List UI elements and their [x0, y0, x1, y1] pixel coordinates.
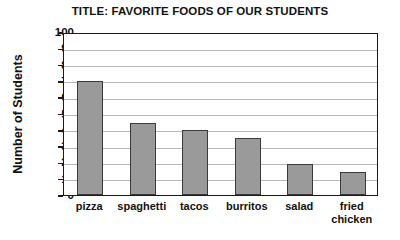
x-axis-tick-label: pizza — [63, 200, 116, 213]
bar — [235, 138, 261, 195]
bar — [340, 172, 366, 195]
bar-chart-figure: TITLE: FAVORITE FOODS OF OUR STUDENTS Nu… — [0, 0, 400, 240]
x-axis-tick-label: burritos — [221, 200, 274, 213]
plot-area — [63, 33, 378, 196]
gridline — [64, 50, 377, 51]
gridline — [64, 131, 377, 132]
gridline — [64, 164, 377, 165]
gridline — [64, 99, 377, 100]
chart-title: TITLE: FAVORITE FOODS OF OUR STUDENTS — [0, 5, 400, 17]
gridline — [64, 115, 377, 116]
y-axis-title: Number of Students — [9, 33, 27, 196]
bar — [287, 164, 313, 195]
bar — [77, 81, 103, 195]
y-axis-title-container: Number of Students — [8, 32, 28, 196]
x-axis-tick-label: fried chicken — [326, 200, 379, 226]
x-axis-tick-label: spaghetti — [116, 200, 169, 213]
bar — [130, 123, 156, 195]
bar — [182, 130, 208, 195]
x-axis-tick-label: salad — [273, 200, 326, 213]
gridline — [64, 180, 377, 181]
gridline — [64, 66, 377, 67]
x-axis-tick-label: tacos — [168, 200, 221, 213]
gridline — [64, 148, 377, 149]
gridline — [64, 82, 377, 83]
